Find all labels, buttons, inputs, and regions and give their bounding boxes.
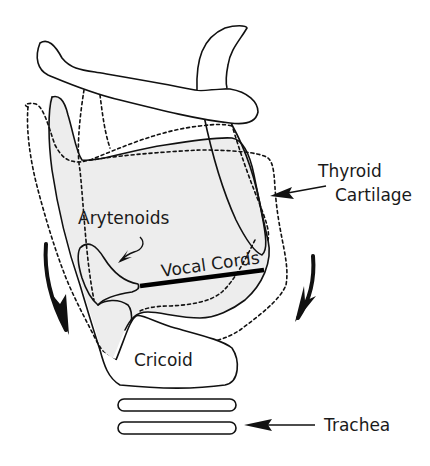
- label-cartilage: Cartilage: [335, 185, 412, 205]
- trachea-rings: [118, 399, 236, 434]
- label-trachea: Trachea: [323, 415, 390, 435]
- label-cricoid: Cricoid: [134, 350, 193, 370]
- thyroid-arrow: [270, 186, 326, 199]
- rotation-arrow-right: [295, 256, 316, 322]
- larynx-diagram: Thyroid Cartilage Arytenoids Vocal Cords…: [0, 0, 430, 466]
- hyoid-bone: [37, 26, 258, 124]
- trachea-arrow: [244, 419, 315, 431]
- label-thyroid: Thyroid: [317, 161, 382, 181]
- label-arytenoids: Arytenoids: [78, 208, 169, 228]
- rotation-arrow-left: [46, 244, 69, 335]
